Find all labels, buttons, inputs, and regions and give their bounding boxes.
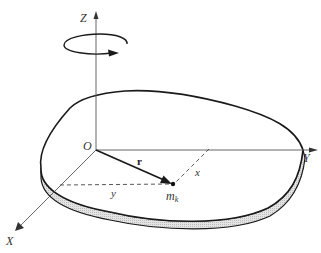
rotation-arrow xyxy=(64,34,127,54)
vector-r-label: r xyxy=(137,155,142,167)
rotation-arrow-head-icon xyxy=(108,50,119,57)
z-axis-label: Z xyxy=(80,11,87,25)
mass-label-main: m xyxy=(166,189,175,203)
mass-label-subscript: k xyxy=(175,195,179,204)
y-axis-label: Y xyxy=(303,151,311,165)
origin-label: O xyxy=(83,139,92,153)
z-axis-arrow-icon xyxy=(94,11,99,19)
y-distance-label: y xyxy=(110,187,116,199)
mass-point xyxy=(171,182,175,186)
rotating-disk-diagram: Z Y X O x y r mk xyxy=(0,0,321,253)
x-axis-label: X xyxy=(5,234,14,248)
y-axis-arrow-icon xyxy=(309,148,318,153)
x-distance-label: x xyxy=(194,166,200,178)
